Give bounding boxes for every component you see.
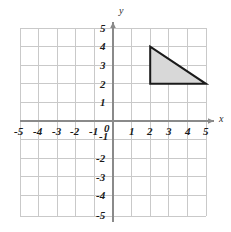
x-axis-arrowhead — [208, 118, 214, 124]
x-tick-label-2: 2 — [147, 126, 153, 137]
y-tick-label-2: 2 — [100, 79, 106, 90]
y-tick-label-5: 5 — [100, 23, 106, 34]
y-tick-label-4: 4 — [100, 41, 106, 52]
y-axis-arrowhead — [110, 22, 116, 28]
x-axis-title: x — [219, 114, 223, 124]
y-tick-label--5: -5 — [96, 210, 105, 221]
x-tick-label-1: 1 — [129, 126, 135, 137]
x-tick-label--2: -2 — [70, 126, 79, 137]
x-tick-label--3: -3 — [52, 126, 61, 137]
y-tick-label--2: -2 — [96, 153, 105, 164]
y-tick-label-3: 3 — [100, 60, 106, 71]
y-tick-label--4: -4 — [96, 190, 105, 201]
x-tick-label--4: -4 — [33, 126, 42, 137]
y-tick-label-1: 1 — [100, 97, 106, 108]
x-tick-label--5: -5 — [14, 126, 23, 137]
coordinate-plane-svg — [0, 0, 231, 232]
y-axis-title: y — [119, 6, 123, 16]
coordinate-plane-figure: y x 0 -5 -4 -3 -2 -1 1 2 3 4 5 5 4 3 2 1… — [0, 0, 231, 232]
x-tick-label-3: 3 — [166, 126, 172, 137]
x-tick-label-5: 5 — [203, 126, 209, 137]
x-tick-label-4: 4 — [185, 126, 191, 137]
x-tick-label--1: -1 — [89, 126, 98, 137]
y-tick-label--3: -3 — [96, 172, 105, 183]
y-tick-label--1: -1 — [99, 131, 108, 142]
axis-lines — [20, 22, 214, 222]
